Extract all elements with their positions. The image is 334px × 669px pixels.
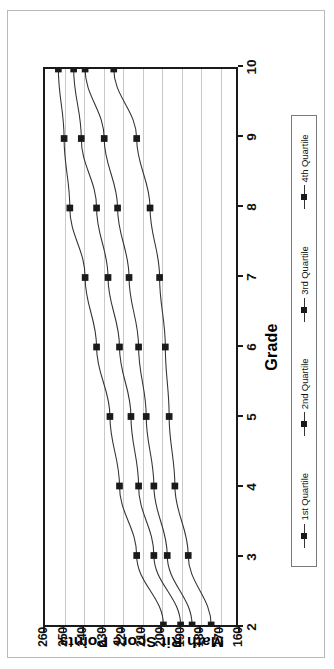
chart-legend: 1st Quartile2nd Quartile3rd Quartile4th … [291,115,317,567]
y-axis-tick-label: 220 [115,627,128,669]
x-axis-tick-mark [238,206,243,208]
x-axis-tick-label: 3 [245,537,259,577]
data-point-marker [162,344,169,351]
data-point-marker [164,552,171,559]
data-point-marker [172,483,179,490]
x-axis-tick-label: 5 [245,397,259,437]
data-point-marker [133,135,140,142]
x-axis-title: Grade [263,67,281,627]
data-point-marker [151,483,158,490]
y-axis-tick-label: 170 [213,627,226,669]
y-axis-tick-mark [219,627,221,632]
data-point-marker [55,69,62,72]
y-axis-tick-label: 180 [193,627,206,669]
data-point-marker [128,413,135,420]
x-axis-tick-mark [238,486,243,488]
legend-marker-icon [299,524,309,548]
y-axis-tick-mark [160,627,162,632]
x-axis-tick-mark [238,136,243,138]
data-point-marker [160,622,167,625]
data-point-marker [82,69,89,72]
legend-label: 1st Quartile [299,473,310,520]
x-axis-tick-mark [238,626,243,628]
data-point-marker [110,69,117,72]
data-point-marker [208,622,215,625]
y-axis-tick-mark [238,627,240,632]
y-axis-tick-mark [180,627,182,632]
data-point-marker [66,205,73,212]
plot-frame [43,67,238,627]
data-point-marker [126,274,133,281]
data-point-marker [107,413,114,420]
data-point-marker [151,552,158,559]
y-axis-tick-label: 200 [154,627,167,669]
x-axis-tick-mark [238,66,243,68]
data-point-marker [133,552,140,559]
y-axis-tick-mark [199,627,201,632]
chart-stage: Math Rit Score Points 260250240230220210… [25,35,325,655]
y-axis-tick-label: 250 [57,627,70,669]
x-axis-tick-label: 8 [245,187,259,227]
data-point-marker [166,413,173,420]
data-point-marker [135,344,142,351]
x-axis-tick-label: 7 [245,257,259,297]
data-point-marker [135,483,142,490]
y-axis-tick-label: 260 [37,627,50,669]
data-point-marker [189,622,196,625]
x-axis-tick-label: 2 [245,607,259,647]
x-axis-tick-mark [238,556,243,558]
y-axis-tick-mark [102,627,104,632]
page-frame: Math Rit Score Points 260250240230220210… [7,10,325,658]
legend-marker-icon [299,298,309,322]
x-axis-tick-label: 6 [245,327,259,367]
legend-label: 3rd Quartile [299,246,310,294]
series-layer [45,69,236,625]
data-point-marker [105,274,112,281]
y-axis-tick-mark [43,627,45,632]
x-axis-tick-mark [238,276,243,278]
data-point-marker [177,622,184,625]
data-point-marker [82,274,89,281]
legend-item[interactable]: 4th Quartile [299,134,310,209]
x-axis-tick-label: 4 [245,467,259,507]
y-axis-tick-mark [63,627,65,632]
x-axis-tick-mark [238,416,243,418]
y-axis-tick-label: 230 [96,627,109,669]
data-point-marker [101,135,108,142]
y-axis-tick-label: 210 [135,627,148,669]
data-point-marker [116,344,123,351]
x-axis-tick-label: 9 [245,117,259,157]
data-point-marker [185,552,192,559]
y-axis-tick-mark [82,627,84,632]
y-axis-tick-mark [121,627,123,632]
legend-marker-icon [299,185,309,209]
x-axis-tick-label: 10 [245,47,259,87]
plot-area [45,69,236,625]
legend-item[interactable]: 3rd Quartile [299,246,310,321]
data-point-marker [143,413,150,420]
y-axis-tick-label: 160 [232,627,245,669]
rotated-chart-wrapper: Math Rit Score Points 260250240230220210… [25,35,325,655]
legend-label: 2nd Quartile [299,359,310,410]
legend-item[interactable]: 2nd Quartile [299,359,310,437]
legend-item[interactable]: 1st Quartile [299,473,310,547]
data-point-marker [70,69,77,72]
data-point-marker [156,274,163,281]
data-point-marker [93,205,100,212]
legend-label: 4th Quartile [299,134,310,182]
legend-marker-icon [299,412,309,436]
y-axis-tick-label: 190 [174,627,187,669]
series-line [58,69,163,625]
data-point-marker [61,135,68,142]
data-point-marker [114,205,121,212]
data-point-marker [78,135,85,142]
x-axis-tick-mark [238,346,243,348]
data-point-marker [93,344,100,351]
y-axis-tick-mark [141,627,143,632]
y-axis-tick-label: 240 [76,627,89,669]
data-point-marker [147,205,154,212]
data-point-marker [116,483,123,490]
